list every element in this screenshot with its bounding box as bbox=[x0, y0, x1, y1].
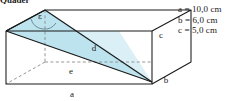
angle-label: ε bbox=[38, 12, 42, 21]
legend-row-c: c = 5,0 cm bbox=[178, 25, 236, 36]
edge-a-label: a bbox=[70, 89, 74, 99]
space-diagonal-label: d bbox=[92, 43, 97, 53]
legend-row-b: b = 6,0 cm bbox=[178, 15, 236, 26]
edge-c-label: c bbox=[159, 30, 163, 40]
quader-figure: Quader ε d e a b c a = 10,0 cm bbox=[0, 0, 237, 101]
measurements-legend: a = 10,0 cm b = 6,0 cm c = 5,0 cm bbox=[178, 4, 236, 36]
face-diagonal-label: e bbox=[69, 66, 73, 76]
hidden-edge-back-bottom-left bbox=[6, 62, 45, 84]
edge-b-label: b bbox=[164, 75, 169, 85]
legend-row-a: a = 10,0 cm bbox=[178, 4, 236, 15]
